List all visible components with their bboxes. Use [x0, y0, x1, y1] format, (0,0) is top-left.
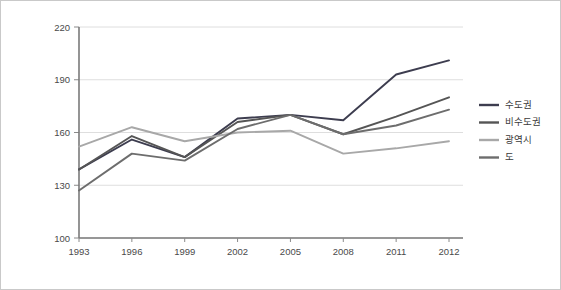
x-axis-label-2011: 2011	[386, 246, 406, 257]
legend-item-2[interactable]: 광역시	[479, 134, 532, 145]
y-axis-label-160: 160	[54, 127, 70, 138]
legend-label-2: 광역시	[505, 134, 532, 145]
x-axis-label-2012: 2012	[438, 246, 459, 257]
x-axis-label-1996: 1996	[121, 246, 142, 257]
x-axis-label-2002: 2002	[227, 246, 248, 257]
x-axis-label-2005: 2005	[280, 246, 301, 257]
series-line-1	[79, 97, 449, 169]
series-line-3	[79, 110, 449, 191]
x-axis-label-1993: 1993	[68, 246, 89, 257]
chart-plot-area: 1001301601902201993199619992002200520082…	[1, 1, 561, 290]
y-axis-label-220: 220	[54, 22, 70, 33]
x-axis-label-2008: 2008	[333, 246, 354, 257]
legend-label-0: 수도권	[505, 99, 532, 110]
chart-figure-frame: 1001301601902201993199619992002200520082…	[0, 0, 561, 290]
y-axis-label-190: 190	[54, 74, 70, 85]
legend-label-3: 도	[505, 151, 514, 162]
legend-label-1: 비수도권	[505, 116, 541, 127]
x-axis-labels: 19931996199920022005200820112012	[68, 238, 459, 257]
x-axis-label-1999: 1999	[174, 246, 195, 257]
legend-item-3[interactable]: 도	[479, 151, 514, 162]
legend-item-1[interactable]: 비수도권	[479, 116, 541, 127]
line-chart: 1001301601902201993199619992002200520082…	[1, 1, 561, 290]
y-axis-label-100: 100	[54, 233, 70, 244]
legend-item-0[interactable]: 수도권	[479, 99, 532, 110]
chart-legend: 수도권비수도권광역시도	[479, 99, 541, 163]
y-axis-label-130: 130	[54, 180, 70, 191]
